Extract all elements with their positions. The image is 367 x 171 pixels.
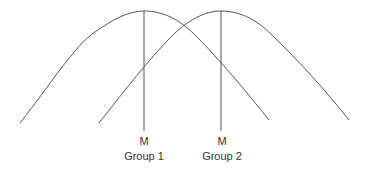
distribution-diagram — [0, 0, 367, 171]
group-2-label: Group 2 — [192, 150, 252, 163]
group-2-mean-label: M — [192, 135, 252, 148]
group-2-curve — [99, 11, 349, 123]
group-1-mean-label: M — [114, 135, 174, 148]
group-1-label: Group 1 — [114, 150, 174, 163]
